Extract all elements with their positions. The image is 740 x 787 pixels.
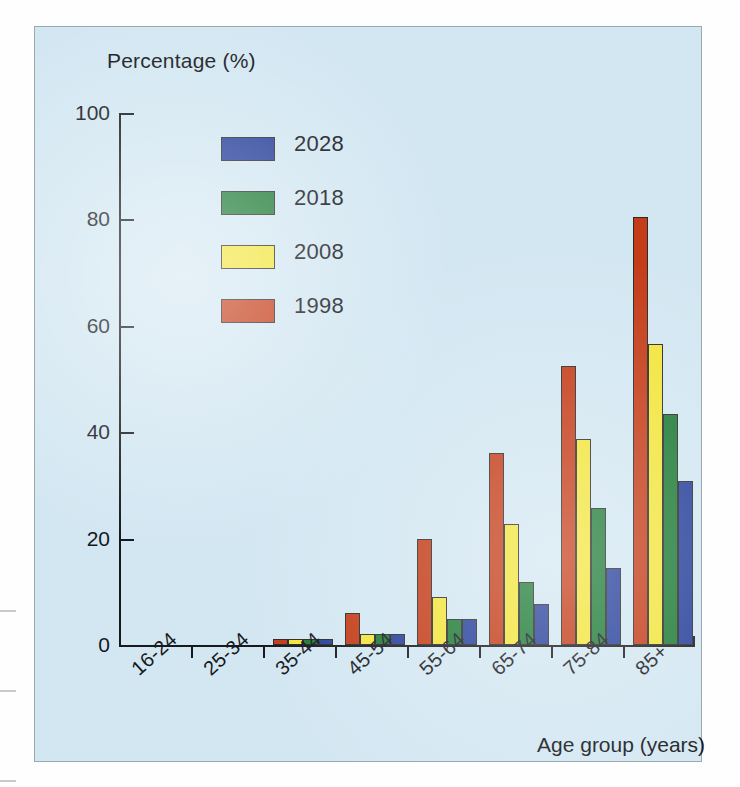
x-axis-group-tick [479,647,481,658]
legend-label: 2018 [294,185,344,211]
bar [561,366,576,645]
x-axis-group-tick [551,647,553,658]
bar [591,508,606,645]
plot-area: 020406080100 16-2425-3435-4445-5455-6465… [119,113,695,647]
bar [678,481,693,645]
y-axis-title: Percentage (%) [107,49,256,73]
page-edge-mark [0,610,16,612]
bar [606,568,621,645]
legend-label: 2028 [294,131,344,157]
legend-label: 2008 [294,239,344,265]
y-axis-tick-label: 40 [87,420,110,444]
bar [489,453,504,645]
x-axis-category-label: 35-44 [271,628,326,680]
page-edge-mark [0,690,16,692]
x-axis-group-tick [191,647,193,658]
legend-item: 1998 [221,293,391,347]
y-axis-tick [121,326,134,328]
bar [633,217,648,645]
bar [345,613,360,645]
bar [648,344,663,645]
x-axis-title: Age group (years) [537,733,705,757]
page-edge-mark [0,780,16,782]
legend-swatch [221,137,275,161]
legend-item: 2008 [221,239,391,293]
y-axis-tick [121,113,134,115]
x-axis-group-tick [407,647,409,658]
y-axis-tick-label: 60 [87,313,110,337]
x-axis-group-tick [623,647,625,658]
bar [504,524,519,645]
x-axis-category-label: 16-24 [127,628,182,680]
bar [417,539,432,645]
legend-swatch [221,245,275,269]
page-canvas: Percentage (%) 020406080100 16-2425-3435… [0,0,740,787]
chart-figure-panel: Percentage (%) 020406080100 16-2425-3435… [34,26,702,762]
legend-swatch [221,299,275,323]
y-axis-tick [121,539,134,541]
legend-item: 2028 [221,131,391,185]
chart-legend: 2028201820081998 [221,131,391,347]
bar [663,414,678,645]
x-axis-group-tick [263,647,265,658]
legend-label: 1998 [294,293,344,319]
x-axis-endcap [693,636,695,647]
y-axis-tick-label: 100 [75,101,110,125]
legend-swatch [221,191,275,215]
legend-item: 2018 [221,185,391,239]
x-axis-group-tick [335,647,337,658]
bar [273,639,288,645]
y-axis-tick [121,645,134,647]
y-axis-tick-label: 80 [87,207,110,231]
y-axis-tick [121,432,134,434]
x-axis-category-label: 25-34 [199,628,254,680]
y-axis-tick [121,219,134,221]
y-axis-line [119,113,121,647]
y-axis-tick-label: 0 [98,633,110,657]
y-axis-tick-label: 20 [87,526,110,550]
bar [576,439,591,645]
